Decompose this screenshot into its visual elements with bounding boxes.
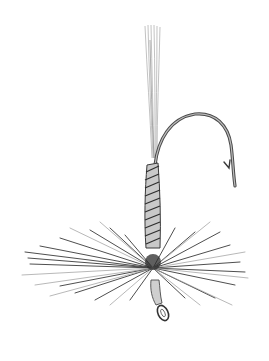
- fly-body: [145, 163, 160, 248]
- fly-drawing: [0, 0, 269, 361]
